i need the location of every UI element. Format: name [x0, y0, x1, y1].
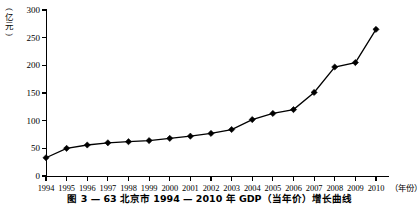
x-axis-tick-label: 2003: [223, 184, 240, 193]
data-series-gdp: [46, 10, 389, 180]
y-axis-tick-label: 150: [27, 89, 41, 98]
x-axis-tick-label: 1999: [141, 184, 158, 193]
y-axis-tick-label: 200: [27, 61, 41, 70]
x-axis-tick-label: 2001: [182, 184, 199, 193]
data-point-marker: [373, 26, 379, 32]
x-axis-tick-label: 1997: [100, 184, 117, 193]
data-point-marker: [167, 135, 173, 141]
x-axis-tick-label: 2007: [306, 184, 323, 193]
x-axis-tick-label: 1994: [38, 184, 55, 193]
data-point-marker: [229, 126, 235, 132]
x-axis-tick-label: 1998: [120, 184, 137, 193]
figure-caption: 图 3 — 63 北京市 1994 — 2010 年 GDP（当年价）增长曲线: [0, 193, 419, 204]
x-axis-tick-label: 2000: [161, 184, 178, 193]
data-point-marker: [125, 139, 131, 145]
x-axis-unit-label: （年份）: [390, 184, 419, 193]
x-axis-tick-label: 1996: [79, 184, 96, 193]
y-axis-tick-label: 100: [27, 116, 41, 125]
data-point-marker: [249, 116, 255, 122]
series-line: [46, 29, 376, 157]
x-axis-tick-label: 2010: [368, 184, 385, 193]
data-point-marker: [208, 130, 214, 136]
y-axis-tick-label: 0: [36, 172, 41, 181]
x-axis-tick-label: 2002: [203, 184, 220, 193]
figure-gdp-growth-curve: ( 亿 元 ) 050100150200250300 1994199519961…: [0, 0, 419, 205]
x-axis-tick-label: 2004: [244, 184, 261, 193]
data-point-marker: [105, 140, 111, 146]
x-axis-tick-label: 2006: [285, 184, 302, 193]
x-axis-tick-label: 1995: [58, 184, 75, 193]
y-axis-tick-label: 300: [27, 6, 41, 15]
y-axis-tick-label: 50: [31, 144, 40, 153]
data-point-marker: [43, 155, 49, 161]
data-point-marker: [187, 133, 193, 139]
x-axis-tick-label: 2008: [326, 184, 343, 193]
x-axis-tick-label: 2009: [347, 184, 364, 193]
y-unit-close-paren: ): [6, 27, 13, 43]
data-point-marker: [64, 145, 70, 151]
y-unit-open-paren: (: [6, 2, 13, 18]
data-point-marker: [146, 137, 152, 143]
plot-area: 050100150200250300 199419951996199719981…: [46, 10, 376, 176]
x-axis-tick-label: 2005: [265, 184, 282, 193]
y-axis-tick-label: 250: [27, 33, 41, 42]
data-point-marker: [84, 142, 90, 148]
series-markers: [43, 26, 379, 161]
data-point-marker: [352, 59, 358, 65]
y-axis-unit-label: ( 亿 元 ): [1, 6, 17, 38]
data-point-marker: [270, 110, 276, 116]
